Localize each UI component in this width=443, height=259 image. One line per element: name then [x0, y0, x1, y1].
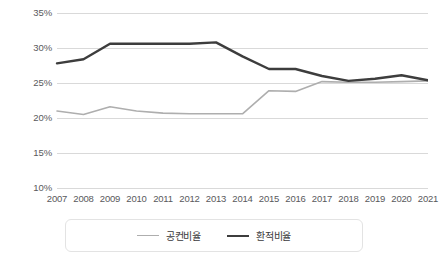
legend-item-0[interactable]: 공컨비율 — [137, 228, 201, 243]
y-tick-label-30: 30% — [18, 42, 52, 53]
y-tick-label-10: 10% — [18, 182, 52, 193]
x-tick-label-2016: 2016 — [281, 193, 311, 204]
chart-plot-svg — [0, 0, 428, 215]
y-tick-label-25: 25% — [18, 77, 52, 88]
x-tick-label-2018: 2018 — [334, 193, 364, 204]
chart-legend: 공컨비율 환적비율 — [65, 219, 363, 252]
x-tick-label-2010: 2010 — [122, 193, 152, 204]
x-tick-label-2009: 2009 — [95, 193, 125, 204]
legend-swatch-icon-0 — [137, 235, 159, 236]
series-line-0 — [57, 81, 428, 115]
x-tick-label-2020: 2020 — [387, 193, 417, 204]
x-tick-label-2017: 2017 — [307, 193, 337, 204]
y-tick-label-35: 35% — [18, 7, 52, 18]
legend-swatch-icon-1 — [227, 235, 249, 237]
x-tick-label-2014: 2014 — [228, 193, 258, 204]
x-tick-label-2007: 2007 — [42, 193, 72, 204]
x-tick-label-2015: 2015 — [254, 193, 284, 204]
x-tick-label-2012: 2012 — [175, 193, 205, 204]
legend-label-1: 환적비율 — [256, 228, 291, 243]
x-tick-label-2021: 2021 — [413, 193, 443, 204]
x-tick-label-2013: 2013 — [201, 193, 231, 204]
x-tick-label-2008: 2008 — [69, 193, 99, 204]
y-tick-label-15: 15% — [18, 147, 52, 158]
y-tick-label-20: 20% — [18, 112, 52, 123]
x-tick-label-2011: 2011 — [148, 193, 178, 204]
legend-label-0: 공컨비율 — [166, 228, 201, 243]
legend-item-1[interactable]: 환적비율 — [227, 228, 291, 243]
plot-area — [0, 0, 428, 215]
x-tick-label-2019: 2019 — [360, 193, 390, 204]
